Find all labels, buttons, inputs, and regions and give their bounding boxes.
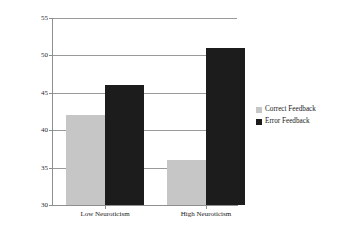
x-axis-tick-label: High Neuroticism xyxy=(161,210,251,219)
y-axis-tick-label: 55 xyxy=(24,14,48,22)
legend-item: Error Feedback xyxy=(256,116,342,127)
y-axis-tick-label: 50 xyxy=(24,51,48,59)
y-axis-tick-mark xyxy=(49,93,53,94)
y-axis-tick-mark xyxy=(49,55,53,56)
legend-label: Correct Feedback xyxy=(265,105,316,114)
bar xyxy=(105,85,144,205)
bar xyxy=(206,48,245,205)
y-axis-tick-mark xyxy=(49,18,53,19)
legend-swatch-icon xyxy=(256,119,262,125)
bar-chart: Percentage of Switched Responses Across … xyxy=(0,0,346,236)
y-axis-tick-label: 40 xyxy=(24,126,48,134)
y-axis-tick-mark xyxy=(49,130,53,131)
y-axis-tick-labels: 303540455055 xyxy=(24,0,48,236)
x-axis-line xyxy=(52,205,238,206)
y-axis-tick-mark xyxy=(49,168,53,169)
plot-area xyxy=(53,18,237,205)
x-axis-tick-mark xyxy=(206,206,207,209)
legend-swatch-icon xyxy=(256,107,262,113)
x-axis-tick-mark xyxy=(105,206,106,209)
gridline xyxy=(53,18,237,19)
legend-item: Correct Feedback xyxy=(256,104,342,115)
y-axis-tick-label: 45 xyxy=(24,89,48,97)
legend-label: Error Feedback xyxy=(265,117,310,126)
y-axis-tick-mark xyxy=(49,205,53,206)
y-axis-tick-label: 35 xyxy=(24,164,48,172)
x-axis-tick-label: Low Neuroticism xyxy=(60,210,150,219)
chart-legend: Correct FeedbackError Feedback xyxy=(256,104,342,128)
bar xyxy=(167,160,206,205)
y-axis-tick-label: 30 xyxy=(24,201,48,209)
bar xyxy=(66,115,105,205)
